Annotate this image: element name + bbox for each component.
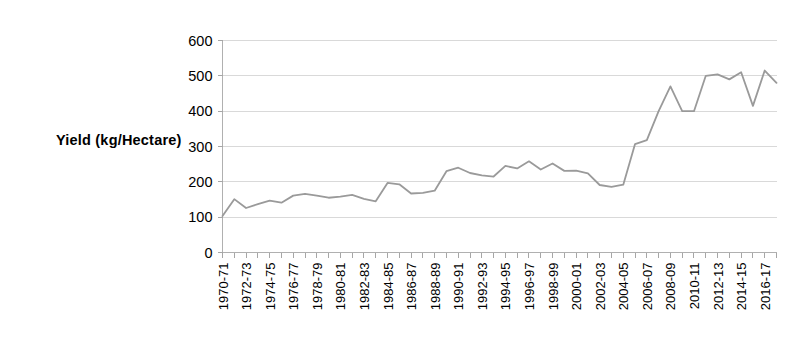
y-tick-label: 500 [188,68,212,84]
line-chart: 0100200300400500600 1970-711972-731974-7… [0,0,790,351]
x-tick-label: 2014-15 [734,263,749,311]
x-tick-label: 1988-89 [428,263,443,311]
x-tick-label: 2012-13 [711,263,726,311]
x-tick-label: 2008-09 [663,263,678,311]
y-tick-label: 100 [188,209,212,225]
x-tick-label: 1998-99 [546,263,561,311]
x-tick-label: 2002-03 [593,263,608,311]
x-tick-label: 1970-71 [216,263,231,311]
x-tick-label: 1982-83 [357,263,372,311]
y-tick-label: 0 [204,245,212,261]
x-tick-label: 1972-73 [239,263,254,311]
y-tick-labels: 0100200300400500600 [188,33,222,261]
x-tick-label: 1974-75 [263,263,278,311]
y-tick-label: 400 [188,103,212,119]
x-tick-label: 2000-01 [569,263,584,311]
x-tick-label: 2006-07 [640,263,655,311]
x-tick-label: 1992-93 [475,263,490,311]
x-tick-label: 2010-11 [687,263,702,310]
x-tick-label: 1986-87 [404,263,419,311]
y-tick-label: 200 [188,174,212,190]
x-tick-labels: 1970-711972-731974-751976-771978-791980-… [216,263,773,311]
x-tick-label: 1978-79 [310,263,325,311]
x-tick-label: 1984-85 [381,263,396,311]
y-tick-label: 600 [188,33,212,49]
x-tick-label: 2004-05 [616,263,631,311]
x-tick-label: 1976-77 [286,263,301,311]
y-tick-label: 300 [188,139,212,155]
x-tick-label: 1994-95 [498,263,513,311]
series-line-yield [223,71,777,217]
data-series [223,71,777,217]
x-tick-label: 1996-97 [522,263,537,311]
x-tickmarks [223,253,777,258]
x-tick-label: 2016-17 [758,263,773,311]
chart-figure: Yield (kg/Hectare) 0100200300400500600 1… [0,0,790,351]
gridlines [223,41,777,253]
x-tick-label: 1980-81 [333,263,348,311]
x-tick-label: 1990-91 [451,263,466,311]
